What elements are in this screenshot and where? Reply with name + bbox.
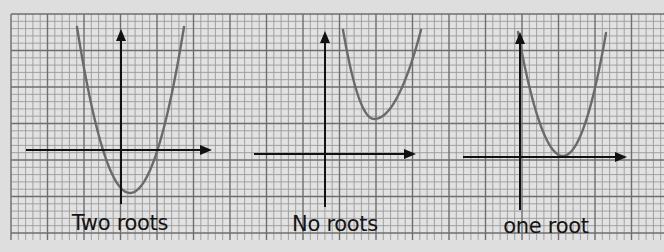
label-one-root: one root bbox=[503, 214, 588, 238]
label-two-roots: Two roots bbox=[72, 211, 168, 235]
label-no-roots: No roots bbox=[292, 212, 378, 236]
